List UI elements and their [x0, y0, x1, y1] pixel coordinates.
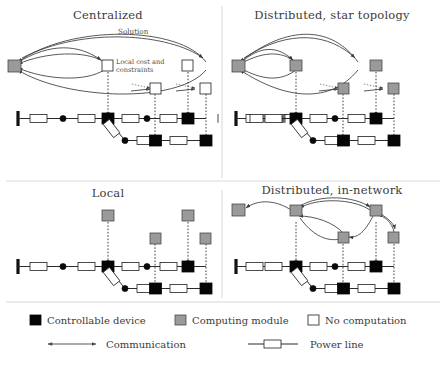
sub-agent-links-distributed-star [319, 84, 383, 91]
panel-title-local: Local [92, 186, 125, 200]
subagent-arrow-ds-b2 [364, 89, 383, 91]
controllable-device-3[interactable] [150, 135, 162, 146]
panel-local: Local [18, 186, 212, 294]
compute-node-agent-1[interactable] [102, 60, 113, 71]
feeder-junction-in-2 [332, 263, 338, 269]
feeder-junction-2 [144, 115, 150, 121]
panel-centralized: Centralized Solution Local [8, 8, 212, 146]
local-cost-label-line2: constraints [116, 66, 154, 74]
legend-label-computing-module: Computing module [192, 315, 289, 326]
sub-agent-links-centralized [131, 84, 195, 91]
controllable-device-ds-2[interactable] [370, 113, 382, 124]
feeder-junction-1 [60, 115, 66, 121]
power-line-segment-ds-1 [246, 115, 263, 123]
controllable-device-lo-3[interactable] [150, 283, 162, 294]
power-network-local [18, 259, 212, 294]
power-line-segment-ds-3 [310, 115, 327, 123]
power-line-segment-branch-in [291, 267, 308, 285]
comm-arc-in-left [246, 202, 291, 210]
legend-swatch-computing-module [175, 315, 186, 325]
subagent-dash-ds-b1 [364, 84, 383, 88]
legend-label-power-line: Power line [310, 339, 364, 350]
subagent-dash-a1 [132, 84, 150, 88]
controllable-device-in-3[interactable] [338, 283, 350, 294]
power-network-in-network [236, 259, 400, 294]
subagent-arrow-a2 [131, 89, 150, 91]
compute-node-lo-3[interactable] [150, 233, 161, 244]
compute-node-lo-1[interactable] [102, 210, 114, 221]
compute-node-coordinator[interactable] [8, 60, 21, 72]
compute-node-agent-2[interactable] [182, 60, 193, 71]
power-line-segment-lo-1 [30, 263, 47, 271]
compute-node-ds-coordinator[interactable] [232, 60, 245, 72]
power-line-segment-6 [170, 137, 187, 145]
controllable-device-lo-4[interactable] [200, 283, 212, 294]
compute-node-lo-4[interactable] [200, 233, 211, 244]
power-line-segment-1 [30, 115, 47, 123]
compute-node-in-3[interactable] [338, 232, 349, 243]
power-line-segment-ds-4 [348, 115, 365, 123]
power-network-centralized [18, 111, 212, 146]
local-cost-label-line1: Local cost and [116, 58, 165, 66]
power-line-segment-in-1 [246, 263, 263, 271]
controllable-device-4[interactable] [200, 135, 212, 146]
figure-root: Centralized Solution Local [0, 0, 448, 366]
power-line-segment-in-4 [348, 263, 365, 271]
branch-junction [122, 137, 128, 143]
compute-node-in-0[interactable] [232, 204, 245, 216]
compute-node-agent-4[interactable] [200, 83, 211, 94]
communication-links-in-network [246, 198, 395, 240]
power-line-segment-branch [103, 119, 120, 137]
comm-arc-return-right [22, 37, 203, 58]
compute-node-in-1[interactable] [290, 205, 302, 216]
branch-junction-ds [310, 137, 316, 143]
compute-node-ds-1[interactable] [290, 60, 302, 71]
branch-junction-in [310, 285, 316, 291]
comm-arc-ds-inner-bottom [240, 68, 296, 78]
subagent-dash-ds-a1 [320, 84, 338, 88]
controllable-device-2[interactable] [182, 113, 194, 124]
power-line-segment-branch-lo [103, 267, 120, 285]
power-line-segment-lo-6 [170, 285, 187, 293]
solution-label: Solution [118, 27, 149, 36]
legend-label-communication: Communication [106, 339, 187, 350]
compute-node-ds-4[interactable] [388, 83, 399, 94]
controllable-device-ds-4[interactable] [388, 135, 400, 146]
compute-node-ds-2[interactable] [370, 60, 382, 71]
compute-node-lo-2[interactable] [182, 210, 194, 221]
panel-title-distributed-star: Distributed, star topology [254, 8, 410, 22]
compute-node-ds-3[interactable] [338, 83, 349, 94]
legend-swatch-no-computation [308, 315, 319, 325]
compute-node-agent-3[interactable] [150, 83, 161, 94]
comm-arc-ds-outer-top [240, 34, 358, 62]
power-line-segment-ds-6 [358, 137, 375, 145]
feeder-junction-lo-2 [144, 263, 150, 269]
comm-arc-in-mid-right [300, 198, 370, 207]
legend-swatch-controllable-device [30, 315, 41, 325]
subagent-arrow-b2 [176, 89, 195, 91]
power-line-segment-4 [160, 115, 177, 123]
legend-swatch-power-line-box [264, 340, 281, 348]
controllable-device-in-2[interactable] [370, 261, 382, 272]
compute-node-in-4[interactable] [388, 232, 399, 243]
diagram-canvas: Centralized Solution Local [0, 0, 448, 366]
legend-label-no-computation: No computation [325, 315, 407, 326]
panel-title-centralized: Centralized [73, 8, 143, 22]
panel-distributed-in-network: Distributed, in-network [232, 183, 403, 294]
controllable-device-lo-2[interactable] [182, 261, 194, 272]
controllable-device-ds-3[interactable] [338, 135, 350, 146]
legend: Controllable device Computing module No … [30, 315, 407, 350]
power-line-segment-ds-2b [265, 115, 282, 123]
power-line-segment-2 [78, 115, 95, 123]
power-line-segment-lo-3 [122, 263, 139, 271]
panel-title-distributed-in-network: Distributed, in-network [261, 183, 403, 197]
power-line-segment-lo-2 [78, 263, 95, 271]
controllable-device-in-4[interactable] [388, 283, 400, 294]
power-line-segment-lo-4 [160, 263, 177, 271]
panel-distributed-star: Distributed, star topology [218, 8, 410, 146]
comm-arc-in-down-left2 [349, 216, 373, 237]
branch-junction-lo [122, 285, 128, 291]
power-line-segment-in-3 [310, 263, 327, 271]
compute-node-in-2[interactable] [370, 205, 382, 216]
power-line-segment-in-6 [358, 285, 375, 293]
